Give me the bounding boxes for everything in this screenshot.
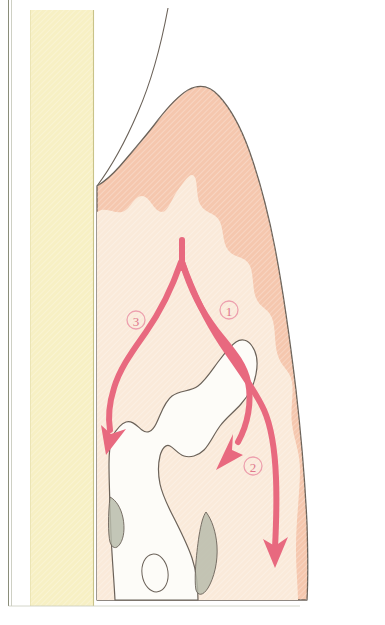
figure-root: 1 2 3	[0, 0, 385, 625]
label-number-1: 1	[226, 304, 233, 319]
yellow-band	[30, 10, 94, 606]
bottom-margin	[0, 606, 385, 625]
label-number-3: 3	[133, 314, 140, 329]
anatomical-illustration: 1 2 3	[0, 0, 385, 625]
label-number-2: 2	[250, 460, 257, 475]
